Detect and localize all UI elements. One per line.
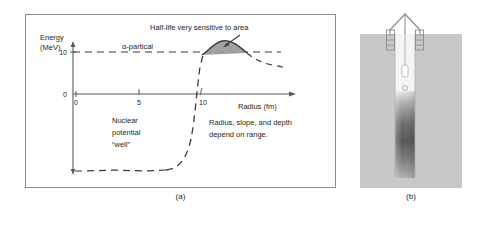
barrier-area-annotation: Half-life very sensitive to area	[150, 23, 249, 32]
panel-b-well-illustration	[356, 8, 466, 188]
well-bottom-dashed	[75, 170, 166, 171]
water-surface-marker	[403, 86, 408, 91]
x-tick-label-10: 10	[199, 99, 207, 106]
panel-a-caption: (a)	[25, 192, 336, 201]
well-label-line1: Nuclear	[112, 116, 138, 125]
y-axis-title-line1: Energy	[40, 33, 64, 42]
x-axis-title: Radius (fm)	[238, 102, 277, 111]
well-wall-rising	[166, 55, 203, 170]
well-label-line3: “well”	[112, 140, 130, 149]
x-tick-label-5: 5	[137, 99, 141, 106]
x-axis-arrowhead	[289, 91, 296, 96]
y-axis-lower-arrowhead	[71, 169, 75, 175]
alpha-particle-label: α-partical	[122, 42, 153, 51]
y-axis-title-line2: (MeV)	[40, 43, 61, 52]
panel-b-caption: (b)	[356, 192, 466, 201]
bucket	[402, 65, 408, 77]
y-tick-label-0: 0	[63, 91, 67, 98]
water-well-diagram	[356, 8, 466, 188]
y-axis-arrowhead	[71, 41, 76, 47]
well-label-line2: potential	[112, 128, 141, 137]
coulomb-tail-dashed	[247, 53, 286, 68]
panel-a-potential-diagram: 10 0 0 5 10 Energy (MeV) Radius (fm) α-p…	[25, 14, 336, 188]
x-tick-label-0: 0	[74, 99, 78, 106]
range-note-line1: Radius, slope, and depth	[209, 118, 292, 127]
water-shading-overlay	[395, 91, 415, 178]
potential-energy-chart: 10 0 0 5 10 Energy (MeV) Radius (fm) α-p…	[26, 15, 337, 189]
range-note-line2: depend on range.	[209, 130, 268, 139]
